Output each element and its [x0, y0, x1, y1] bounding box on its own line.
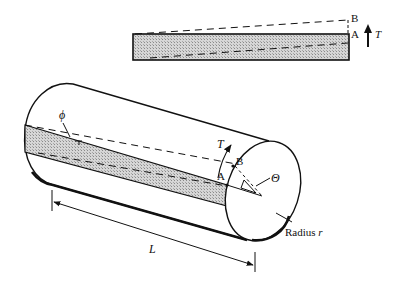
cylinder: ϕ Θ A B T Radius r L [25, 83, 324, 272]
label-shear-angle: ϕ [59, 108, 65, 122]
inset-torque-arrow-icon [364, 24, 372, 47]
inset-label-torque: T [375, 28, 382, 40]
label-radius: Radius r [285, 226, 323, 238]
inset-label-A: A [351, 28, 359, 40]
inset-shaded-strip [133, 34, 349, 60]
label-twist-angle: Θ [271, 171, 280, 185]
inset-strip: B A T [133, 12, 382, 60]
point-B-dot [231, 164, 234, 167]
inset-label-B: B [351, 12, 358, 24]
inset-deformed-top-line [135, 20, 348, 34]
surface-shaded-strip [25, 125, 227, 206]
label-point-B: B [236, 155, 243, 167]
label-torque: T [217, 137, 225, 151]
point-A-dot [225, 183, 228, 186]
phi-leader-line [63, 123, 70, 137]
label-length: L [148, 242, 156, 256]
torsion-diagram: B A T ϕ Θ A B [0, 0, 396, 283]
